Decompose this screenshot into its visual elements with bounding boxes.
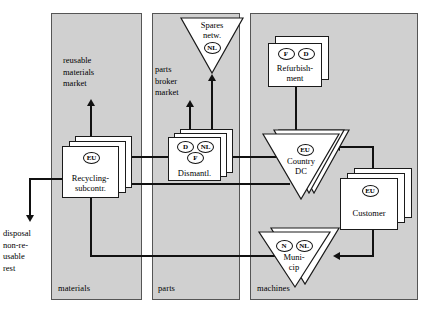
label-disposal-non-reusable-rest: disposal non-re- usable rest bbox=[3, 228, 31, 274]
flow-recycling-to-disposal-h bbox=[29, 178, 64, 180]
node-label-line: ment bbox=[277, 73, 313, 83]
label-line: disposal bbox=[3, 228, 31, 240]
node-label-line: Customer bbox=[352, 208, 385, 218]
node-label-line: Muni- bbox=[264, 252, 324, 262]
country-code-oval: NL bbox=[204, 42, 221, 54]
node-customer[interactable]: EU Customer bbox=[340, 168, 412, 232]
country-code-group-dismantler-row2: F bbox=[169, 152, 222, 164]
node-label-customer: Customer bbox=[352, 208, 385, 218]
country-code-group-spares-network: NL bbox=[180, 42, 244, 54]
label-parts-broker-market: parts broker market bbox=[155, 64, 179, 99]
flow-dismantler-to-recycling-line bbox=[131, 156, 168, 158]
refurbishment-stack-front: F D Refurbish- ment bbox=[268, 43, 322, 87]
node-label-municipality: Muni- cip bbox=[264, 252, 324, 272]
flow-dismantler-to-broker-arrowhead bbox=[186, 100, 194, 107]
node-label-line: cip bbox=[264, 262, 324, 272]
recycling-stack-front: EU Recycling- subcontr. bbox=[62, 146, 119, 198]
node-label-line: Recycling- bbox=[72, 173, 109, 183]
node-label-line: subcontr. bbox=[72, 183, 109, 193]
flow-recycling-to-materials-market-arrowhead bbox=[87, 99, 95, 106]
flow-recycling-to-disposal-v bbox=[29, 178, 31, 216]
node-spares-network[interactable]: Spares netw. NL bbox=[180, 16, 244, 74]
node-label-line: Refurbish- bbox=[277, 63, 313, 73]
label-line: non-re- bbox=[3, 240, 31, 252]
label-line: market bbox=[63, 78, 94, 90]
country-code-oval: D bbox=[298, 48, 315, 60]
country-code-oval: F bbox=[187, 152, 204, 164]
customer-stack-front: EU Customer bbox=[340, 178, 398, 230]
node-label-refurbishment: Refurbish- ment bbox=[277, 63, 313, 83]
node-label-line: DC bbox=[266, 166, 336, 176]
node-label-line: Spares bbox=[180, 20, 244, 30]
country-code-group-refurbishment: F D bbox=[269, 48, 323, 60]
country-code-oval: F bbox=[278, 48, 295, 60]
label-line: usable bbox=[3, 251, 31, 263]
flow-dismantler-to-spares-arrowhead bbox=[208, 74, 216, 81]
label-line: broker bbox=[155, 76, 179, 88]
node-country-dc[interactable]: EU Country DC bbox=[262, 128, 350, 200]
label-line: market bbox=[155, 87, 179, 99]
country-code-oval: EU bbox=[297, 144, 314, 156]
node-label-line: Dismantl. bbox=[178, 168, 211, 178]
country-code-group-recycling: EU bbox=[63, 152, 120, 164]
label-line: materials bbox=[63, 67, 94, 79]
node-label-country-dc: Country DC bbox=[266, 156, 336, 176]
flow-dismantler-to-spares-line bbox=[211, 80, 213, 136]
flow-customer-to-municipality-h bbox=[340, 255, 374, 257]
node-label-line: Country bbox=[266, 156, 336, 166]
flow-recycling-to-materials-market-line bbox=[90, 105, 92, 140]
node-refurbishment[interactable]: F D Refurbish- ment bbox=[268, 36, 330, 88]
label-line: rest bbox=[3, 263, 31, 275]
node-recycling-subcontractor[interactable]: EU Recycling- subcontr. bbox=[62, 136, 132, 202]
label-line: reusable bbox=[63, 55, 94, 67]
flow-municipality-to-recycling-v bbox=[90, 197, 92, 256]
node-label-dismantler: Dismantl. bbox=[178, 168, 211, 178]
node-municipality[interactable]: N NL Muni- cip bbox=[258, 226, 340, 288]
country-code-group-country-dc: EU bbox=[290, 144, 320, 156]
label-reusable-materials-market: reusable materials market bbox=[63, 55, 94, 90]
lane-label-materials: materials bbox=[58, 283, 90, 293]
node-label-spares-network: Spares netw. bbox=[180, 20, 244, 40]
lane-label-parts: parts bbox=[158, 283, 175, 293]
flow-recycling-to-disposal-arrowhead bbox=[26, 215, 34, 222]
node-label-recycling-subcontractor: Recycling- subcontr. bbox=[72, 173, 109, 193]
node-dismantler[interactable]: D NL F Dismantl. bbox=[168, 129, 233, 184]
dismantler-stack-front: D NL F Dismantl. bbox=[168, 137, 221, 181]
country-code-group-municipality: N NL bbox=[264, 240, 324, 252]
diagram-canvas: materials parts machines reusable materi… bbox=[0, 0, 425, 312]
country-code-oval: EU bbox=[83, 152, 100, 164]
label-line: parts bbox=[155, 64, 179, 76]
country-code-oval: N bbox=[276, 240, 293, 252]
country-code-oval: EU bbox=[362, 185, 379, 197]
country-code-oval: NL bbox=[296, 240, 313, 252]
country-code-group-customer: EU bbox=[341, 185, 399, 197]
node-label-line: netw. bbox=[180, 30, 244, 40]
